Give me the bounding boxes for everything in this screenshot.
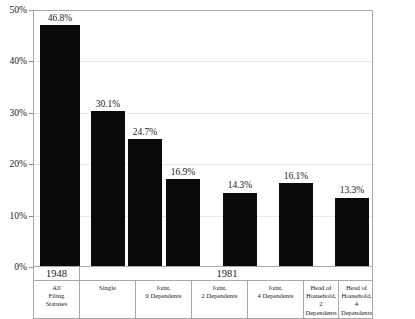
- y-tick-label-0: 0%: [14, 262, 27, 272]
- bar-single: [91, 111, 125, 266]
- category-line: Household,: [339, 292, 374, 300]
- category-cell-head-of-household-4-dependents: Head of Household, 4 Dependents: [339, 281, 374, 318]
- category-cell-joint-0-dependents: Joint, 0 Dependents: [136, 281, 192, 318]
- category-line: Single: [99, 284, 116, 292]
- category-line: All: [46, 284, 68, 292]
- category-line: 4 Dependents: [257, 292, 293, 300]
- category-line: Joint,: [145, 284, 181, 292]
- bar-group-joint-4-dependents: 14.3%: [223, 11, 257, 266]
- category-row: All Filing Statuses Single Joint, 0 Depe…: [33, 281, 373, 319]
- bar-value-all-filing-statuses: 46.8%: [48, 13, 73, 24]
- category-label-table: 1948 1981 All Filing Statuses Single: [33, 267, 373, 319]
- y-tick-label-30: 30%: [10, 108, 27, 118]
- bar-value-single: 30.1%: [96, 99, 121, 110]
- bar-group-joint-0-dependents: 24.7%: [128, 11, 162, 266]
- year-label-1981: 1981: [217, 268, 238, 279]
- y-axis: 50% 40% 30% 20% 10% 0%: [0, 0, 33, 268]
- bar-value-joint-0-dependents: 24.7%: [133, 127, 158, 138]
- year-label-1948: 1948: [46, 268, 67, 279]
- y-tick-label-10: 10%: [10, 211, 27, 221]
- bar-group-single: 30.1%: [91, 11, 125, 266]
- y-tick-label-40: 40%: [10, 56, 27, 66]
- year-row: 1948 1981: [33, 267, 373, 281]
- bar-value-head-of-household-2-dependents: 16.1%: [284, 171, 309, 182]
- category-cell-joint-4-dependents: Joint, 4 Dependents: [248, 281, 304, 318]
- category-line: 2 Dependents: [304, 300, 338, 316]
- category-line: Head of: [339, 284, 374, 292]
- y-tick-label-20: 20%: [10, 159, 27, 169]
- category-cell-all-filing-statuses: All Filing Statuses: [34, 281, 80, 318]
- bar-all-filing-statuses: [40, 25, 80, 266]
- category-line: 0 Dependents: [145, 292, 181, 300]
- category-line: Household,: [304, 292, 338, 300]
- bar-group-joint-2-dependents: 16.9%: [166, 11, 200, 266]
- year-cell-1948: 1948: [34, 267, 80, 280]
- category-line: 4 Dependents: [339, 300, 374, 316]
- category-line: 2 Dependents: [201, 292, 237, 300]
- bar-head-of-household-4-dependents: [335, 198, 369, 266]
- bar-group-head-of-household-4-dependents: 13.3%: [335, 11, 369, 266]
- bar-joint-0-dependents: [128, 139, 162, 266]
- category-line: Filing: [46, 292, 68, 300]
- bar-joint-4-dependents: [223, 193, 257, 267]
- y-tick-label-50: 50%: [10, 5, 27, 15]
- bar-value-joint-2-dependents: 16.9%: [171, 167, 196, 178]
- category-line: Head of: [304, 284, 338, 292]
- category-cell-single: Single: [80, 281, 136, 318]
- bar-value-joint-4-dependents: 14.3%: [228, 180, 253, 191]
- bars-layer: 46.8% 30.1% 24.7% 16.9% 14.3%: [34, 11, 372, 266]
- bar-group-all-filing-statuses: 46.8%: [40, 11, 80, 266]
- category-line: Joint,: [201, 284, 237, 292]
- category-line: Joint,: [257, 284, 293, 292]
- year-cell-1981: 1981: [80, 267, 374, 280]
- bar-chart: 50% 40% 30% 20% 10% 0% 46.8% 30.1%: [0, 0, 415, 319]
- bar-value-head-of-household-4-dependents: 13.3%: [340, 185, 365, 196]
- plot-area: 46.8% 30.1% 24.7% 16.9% 14.3%: [33, 10, 373, 267]
- bar-joint-2-dependents: [166, 179, 200, 266]
- category-cell-joint-2-dependents: Joint, 2 Dependents: [192, 281, 248, 318]
- category-cell-head-of-household-2-dependents: Head of Household, 2 Dependents: [304, 281, 339, 318]
- bar-head-of-household-2-dependents: [279, 183, 313, 266]
- bar-group-head-of-household-2-dependents: 16.1%: [279, 11, 313, 266]
- category-line: Statuses: [46, 300, 68, 308]
